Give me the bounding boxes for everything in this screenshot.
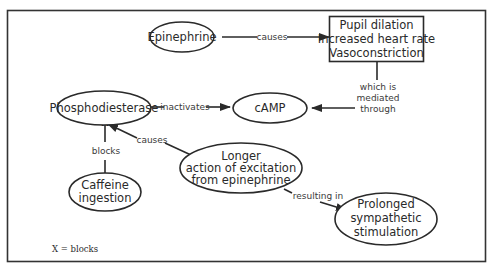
edge-label-mediated: mediated [357,93,400,103]
edge-caffeine-blocks-pde: blocks [92,125,121,175]
node-phosphodiesterase: Phosphodiesterase [50,91,159,125]
svg-text:Increased heart rate: Increased heart rate [318,32,435,46]
edge-label-causes: causes [256,32,287,42]
edge-label-causes-2: causes [136,135,167,145]
svg-text:sympathetic: sympathetic [350,211,421,225]
edge-label-which-is: which is [360,82,397,92]
svg-text:ingestion: ingestion [79,191,132,205]
node-effects: Pupil dilation Increased heart rate Vaso… [318,17,435,62]
node-caffeine-ingestion: Caffeine ingestion [69,173,141,211]
node-epinephrine: Epinephrine [148,22,217,52]
concept-map: causes which is mediated through inactiv… [0,0,493,267]
svg-text:Pupil dilation: Pupil dilation [339,18,413,32]
svg-text:from epinephrine: from epinephrine [191,173,290,187]
node-label: Epinephrine [148,30,217,44]
edge-epinephrine-causes-effects: causes [222,32,329,42]
edge-pde-inactivates-camp: inactivates [151,102,230,112]
edge-label-resulting-in: resulting in [293,191,343,201]
edge-longer-resulting-prolonged: resulting in [284,189,346,210]
svg-text:stimulation: stimulation [354,225,418,239]
legend: X = blocks [52,244,98,254]
node-longer-action: Longer action of excitation from epineph… [180,143,302,193]
node-prolonged-stimulation: Prolonged sympathetic stimulation [335,193,437,245]
svg-text:Vasoconstriction: Vasoconstriction [329,46,423,60]
edge-effects-mediated-camp: which is mediated through [312,62,399,114]
svg-text:cAMP: cAMP [254,101,285,115]
edge-longer-causes-pde: causes [108,124,191,155]
node-camp: cAMP [233,93,307,123]
svg-text:Caffeine: Caffeine [81,178,129,192]
edge-label-blocks: blocks [92,146,121,156]
edge-label-through: through [360,104,395,114]
edge-label-inactivates: inactivates [160,102,210,112]
svg-text:Phosphodiesterase: Phosphodiesterase [50,101,159,115]
svg-text:Prolonged: Prolonged [357,197,414,211]
